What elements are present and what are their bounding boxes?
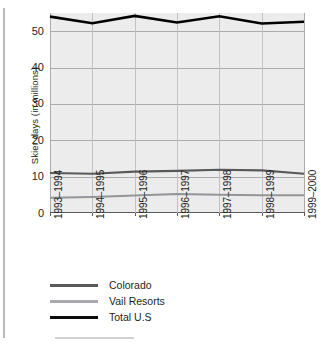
x-axis-tick-label: 1998–1999 bbox=[266, 170, 276, 219]
chart-legend: ColoradoVail ResortsTotal U.S bbox=[50, 277, 250, 325]
x-axis-tickmark bbox=[50, 213, 51, 216]
legend-swatch-line-icon bbox=[50, 284, 98, 287]
x-axis-tickmark bbox=[92, 213, 93, 216]
y-axis-tick-label: 0 bbox=[8, 208, 44, 219]
x-axis-tick-label: 1994–1995 bbox=[96, 170, 106, 219]
legend-swatch-line-icon bbox=[50, 300, 98, 303]
legend-swatch-line-icon bbox=[50, 316, 98, 319]
legend-item: Vail Resorts bbox=[50, 293, 250, 309]
legend-label: Total U.S bbox=[109, 312, 152, 323]
legend-label: Vail Resorts bbox=[109, 296, 165, 307]
series-line-total-u-s bbox=[50, 16, 304, 24]
page-left-rule bbox=[3, 8, 5, 338]
x-axis-tick-label: 1999–2000 bbox=[308, 170, 318, 219]
x-axis-tick-label: 1993–1994 bbox=[54, 170, 64, 219]
page-bottom-rule bbox=[55, 337, 134, 339]
x-axis-tick-label: 1997–1998 bbox=[223, 170, 233, 219]
x-axis-tickmark bbox=[262, 213, 263, 216]
skier-days-line-chart: Skier days (in millions) 01020304050 199… bbox=[0, 0, 321, 346]
x-axis-tickmark bbox=[219, 213, 220, 216]
y-axis-title: Skier days (in millions) bbox=[29, 36, 40, 196]
x-axis-tickmark bbox=[177, 213, 178, 216]
legend-label: Colorado bbox=[109, 280, 152, 291]
x-axis-tick-label: 1996–1997 bbox=[181, 170, 191, 219]
x-axis-tickmark bbox=[304, 213, 305, 216]
legend-item: Total U.S bbox=[50, 309, 250, 325]
legend-item: Colorado bbox=[50, 277, 250, 293]
x-axis-tick-label: 1995–1996 bbox=[139, 170, 149, 219]
x-axis-tickmark bbox=[135, 213, 136, 216]
